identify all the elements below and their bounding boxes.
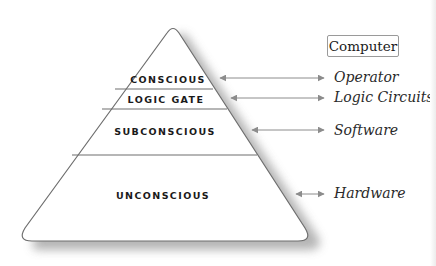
label-software: Software xyxy=(334,122,398,138)
label-logic-circuits: Logic Circuits xyxy=(333,89,433,105)
page-edge xyxy=(430,0,436,266)
layer-label-unconscious: UNCONSCIOUS xyxy=(116,190,210,201)
computer-title-box: Computer xyxy=(327,35,399,57)
label-hardware: Hardware xyxy=(333,185,406,201)
label-operator: Operator xyxy=(334,69,400,85)
layer-label-subconscious: SUBCONSCIOUS xyxy=(114,126,216,137)
layer-label-logic-gate: LOGIC GATE xyxy=(128,94,205,105)
layer-label-conscious: CONSCIOUS xyxy=(130,74,206,85)
computer-title: Computer xyxy=(329,38,397,54)
